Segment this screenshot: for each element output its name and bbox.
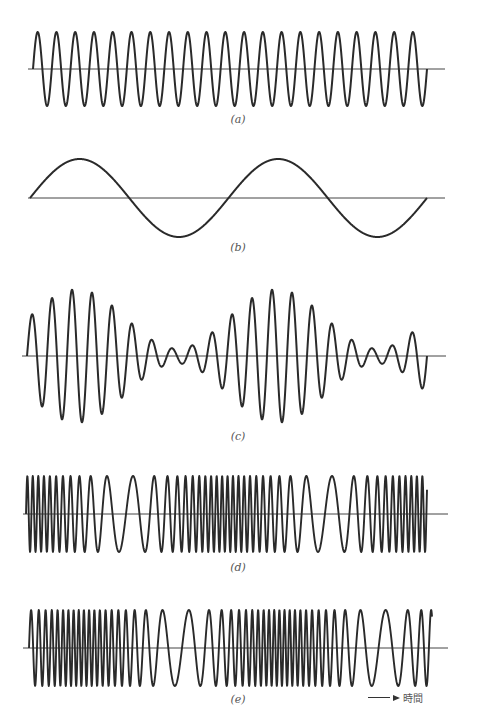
panel-a-label: (a) xyxy=(230,113,245,126)
panel-e-label: (e) xyxy=(230,693,245,706)
panel-b-label: (b) xyxy=(230,241,246,254)
panel-e-fm-wave xyxy=(23,610,448,686)
time-axis-indicator: 時間 xyxy=(368,690,423,705)
panel-c-label: (c) xyxy=(231,430,246,443)
modulation-figure xyxy=(0,0,477,717)
panel-b-modulating-signal xyxy=(28,159,445,237)
panel-a-carrier xyxy=(28,32,445,106)
panel-c-am-wave xyxy=(22,290,446,422)
panel-d-label: (d) xyxy=(230,561,246,574)
time-axis-label: 時間 xyxy=(403,690,423,705)
panel-d-fm-wave xyxy=(23,476,448,552)
arrow-head-icon xyxy=(393,695,400,701)
panel-c-waveform xyxy=(27,290,427,422)
right-arrow-icon xyxy=(368,697,390,698)
